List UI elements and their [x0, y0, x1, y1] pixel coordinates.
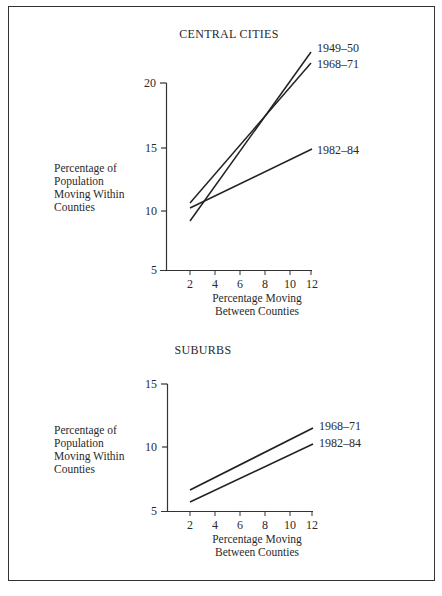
x-tick-label: 12: [306, 518, 318, 532]
suburbs-plot: 15 10 5 2 4 6 8 10 12 1968–71 1982–84: [0, 0, 442, 596]
x-tick-label: 10: [284, 518, 296, 532]
x-tick-label: 6: [237, 518, 243, 532]
series-line-1982-84: [190, 444, 313, 502]
y-tick-label: 5: [151, 504, 157, 518]
series-label-1968-71: 1968–71: [319, 419, 361, 433]
series-line-1968-71: [190, 428, 313, 490]
y-tick-label: 10: [145, 440, 157, 454]
x-tick-label: 8: [262, 518, 268, 532]
x-tick-label: 4: [212, 518, 218, 532]
x-tick-label: 2: [187, 518, 193, 532]
y-tick-label: 15: [145, 377, 157, 391]
series-label-1982-84: 1982–84: [319, 436, 361, 450]
